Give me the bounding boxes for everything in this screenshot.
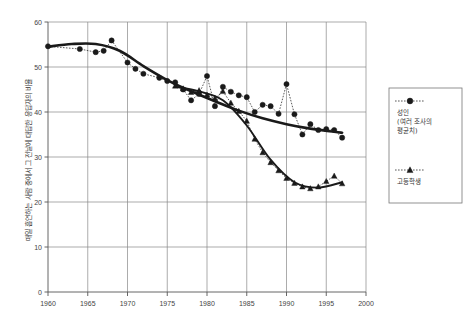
data-point-circle: [284, 82, 289, 87]
data-point-circle: [77, 46, 82, 51]
data-point-circle: [125, 60, 130, 65]
data-point-circle: [228, 89, 233, 94]
data-point-circle: [109, 38, 114, 43]
x-tick-label: 1965: [80, 300, 96, 307]
data-point-circle: [244, 95, 249, 100]
data-point-circle: [204, 73, 209, 78]
data-point-circle: [316, 127, 321, 132]
data-point-circle: [268, 104, 273, 109]
y-axis-title: 매일 흡연하는 사람 중에서 그 전날에 대답한 응답자의 비율: [24, 78, 33, 241]
data-point-circle: [292, 112, 297, 117]
smoking-trend-chart: 6050403020100 19601965197019751980198519…: [0, 0, 466, 323]
data-point-circle: [324, 127, 329, 132]
x-tick-label: 1970: [120, 300, 136, 307]
x-tick-label: 1975: [159, 300, 175, 307]
legend-label: 성인: [397, 108, 409, 117]
y-tick-label: 60: [34, 19, 42, 26]
y-tick-label: 20: [34, 199, 42, 206]
data-point-circle: [101, 48, 106, 53]
data-point-circle: [308, 122, 313, 127]
x-tick-label: 1960: [40, 300, 56, 307]
y-tick-label: 30: [34, 154, 42, 161]
legend-label: (여러 조사의: [397, 117, 432, 126]
x-tick-label: 1995: [318, 300, 334, 307]
data-point-circle: [340, 135, 345, 140]
legend-label: 고등학생: [397, 177, 421, 186]
data-point-circle: [141, 71, 146, 76]
data-point-circle: [93, 50, 98, 55]
x-tick-label: 1985: [239, 300, 255, 307]
data-point-circle: [260, 102, 265, 107]
data-point-circle: [252, 109, 257, 114]
data-point-circle: [300, 132, 305, 137]
data-point-circle: [189, 98, 194, 103]
data-point-circle: [133, 66, 138, 71]
x-tick-label: 1980: [199, 300, 215, 307]
legend-circle-marker: [407, 98, 413, 104]
data-point-circle: [276, 111, 281, 116]
x-axis-tick-labels: 196019651970197519801985199019952000: [40, 300, 374, 307]
y-tick-label: 0: [38, 289, 42, 296]
data-point-circle: [45, 44, 50, 49]
data-point-circle: [157, 75, 162, 80]
y-tick-label: 40: [34, 109, 42, 116]
chart-container: 6050403020100 19601965197019751980198519…: [0, 0, 466, 323]
data-point-circle: [212, 104, 217, 109]
legend-label: 평균치): [397, 126, 418, 135]
x-tick-label: 1990: [279, 300, 295, 307]
x-tick-label: 2000: [358, 300, 374, 307]
data-point-circle: [165, 78, 170, 83]
data-point-circle: [236, 93, 241, 98]
y-tick-label: 50: [34, 64, 42, 71]
data-point-circle: [332, 127, 337, 132]
legend: 성인(여러 조사의평균치)고등학생: [389, 88, 462, 203]
y-tick-label: 10: [34, 244, 42, 251]
